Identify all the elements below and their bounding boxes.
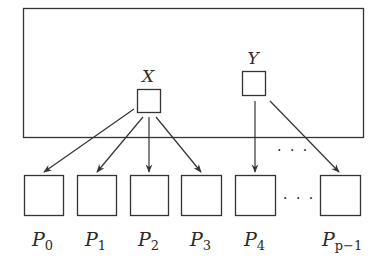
processor-labels: P0 P1 P2 P3 P4 Pp−1 bbox=[31, 228, 362, 253]
edge-x-p0 bbox=[44, 109, 134, 172]
edge-y-pp1 bbox=[270, 101, 339, 172]
source-x-label: X bbox=[140, 66, 155, 86]
broadcast-diagram: X Y · · · · · · P0 P1 P2 P3 P4 Pp−1 bbox=[0, 0, 380, 268]
processor-pp1 bbox=[321, 176, 361, 216]
label-p4: P4 bbox=[243, 228, 265, 253]
processor-p4 bbox=[236, 176, 276, 216]
memory-container bbox=[24, 9, 364, 138]
processor-p0 bbox=[25, 176, 64, 216]
edge-x-p3 bbox=[156, 117, 201, 172]
processor-p1 bbox=[78, 176, 117, 216]
label-p3: P3 bbox=[189, 228, 211, 253]
label-pp1: Pp−1 bbox=[321, 228, 362, 253]
source-x: X bbox=[138, 66, 161, 113]
processor-ellipsis: · · · bbox=[283, 190, 315, 206]
edges-x bbox=[44, 109, 201, 172]
source-y: Y bbox=[243, 48, 266, 96]
label-p1: P1 bbox=[84, 228, 106, 253]
edge-x-p1 bbox=[97, 117, 143, 172]
processor-p2 bbox=[131, 176, 169, 216]
edge-ellipsis: · · · bbox=[277, 142, 309, 158]
source-y-label: Y bbox=[247, 48, 260, 68]
edges-y bbox=[255, 101, 339, 172]
processor-p3 bbox=[182, 176, 222, 216]
label-p2: P2 bbox=[137, 228, 159, 253]
label-p0: P0 bbox=[31, 228, 53, 253]
